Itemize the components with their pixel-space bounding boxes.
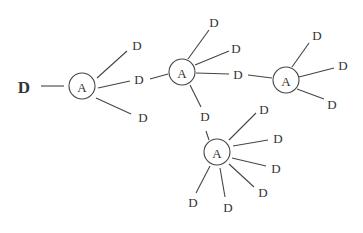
edge-line (232, 158, 266, 166)
a-node-label: A (212, 146, 222, 161)
edge-line (195, 51, 229, 65)
a-node-label: A (77, 80, 87, 95)
edge-line (299, 68, 334, 77)
edge-line (229, 164, 254, 187)
d-node-label: D (132, 38, 141, 53)
d-node-label: D (312, 28, 321, 43)
a-node: A (273, 67, 299, 93)
d-node-label: D (258, 185, 267, 200)
root-d-label: D (18, 78, 30, 97)
edge-line (229, 113, 256, 140)
d-node-label: D (338, 58, 347, 73)
d-node-label: D (259, 102, 268, 117)
a-node: A (69, 73, 95, 99)
edge-line (248, 75, 272, 78)
edge-line (206, 131, 209, 140)
d-node-label: D (233, 67, 242, 82)
edge-line (297, 89, 324, 99)
diagram-canvas: AAAADDDDDDDDDDDDDDDDD (0, 0, 363, 233)
a-node-label: A (281, 74, 291, 89)
d-node-label: D (271, 161, 280, 176)
edge-line (292, 43, 309, 67)
a-node-label: A (177, 66, 187, 81)
d-node-label: D (231, 41, 240, 56)
edge-line (97, 51, 127, 78)
d-node-label: D (327, 97, 336, 112)
edge-line (196, 73, 229, 74)
edge-line (220, 168, 225, 197)
d-node-label: D (209, 15, 218, 30)
d-node-label: D (200, 109, 209, 124)
a-node: A (169, 59, 195, 85)
edge-line (190, 85, 201, 107)
tree-diagram: AAAADDDDDDDDDDDDDDDDD (0, 0, 363, 233)
d-node-label: D (134, 72, 143, 87)
edge-line (188, 30, 209, 59)
a-node: A (204, 139, 230, 165)
edge-line (196, 166, 210, 193)
edge-line (96, 98, 131, 114)
d-node-label: D (223, 200, 232, 215)
d-node-label: D (273, 131, 282, 146)
edge-line (150, 74, 168, 79)
edge-line (98, 81, 130, 88)
d-node-label: D (188, 195, 197, 210)
edge-line (233, 140, 268, 146)
d-node-label: D (138, 110, 147, 125)
